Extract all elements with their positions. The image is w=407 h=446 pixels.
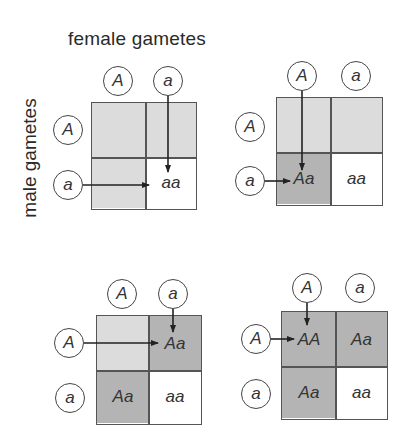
male-gamete-A: A xyxy=(235,112,265,142)
cell-r0c0 xyxy=(92,103,146,158)
cell-r0c1: Aa xyxy=(336,312,387,367)
female-gamete-a: a xyxy=(341,61,371,91)
male-gamete-a: a xyxy=(53,170,83,200)
female-gamete-A: A xyxy=(287,61,317,91)
female-gamete-A: A xyxy=(292,273,322,303)
cell-r0c0 xyxy=(277,98,331,153)
grid-divider xyxy=(145,103,147,209)
grid-divider xyxy=(282,366,387,368)
grid-divider xyxy=(92,157,196,159)
punnett-square-3: Aa Aa aa xyxy=(96,315,202,425)
cell-r1c0: Aa xyxy=(282,367,336,418)
cell-r1c1: aa xyxy=(146,158,196,208)
female-gametes-label: female gametes xyxy=(68,28,206,50)
male-gamete-A: A xyxy=(53,115,83,145)
cell-r0c1 xyxy=(146,103,196,158)
cell-r0c0: AA xyxy=(282,312,336,367)
female-gamete-a: a xyxy=(158,279,188,309)
cell-r1c1: aa xyxy=(336,367,387,418)
male-gamete-a: a xyxy=(235,166,265,196)
grid-divider xyxy=(277,152,382,154)
female-gamete-A: A xyxy=(107,279,137,309)
punnett-square-4: AA Aa Aa aa xyxy=(281,311,388,420)
male-gamete-A: A xyxy=(241,324,271,354)
male-gamete-a: a xyxy=(55,383,85,413)
female-gamete-a: a xyxy=(345,273,375,303)
female-gamete-a: a xyxy=(153,66,183,96)
male-gamete-A: A xyxy=(54,328,84,358)
cell-r1c0: Aa xyxy=(277,153,331,204)
male-gamete-a: a xyxy=(241,379,271,409)
cell-r0c1: Aa xyxy=(149,316,201,371)
male-gametes-label: male gametes xyxy=(19,98,41,217)
cell-r1c0 xyxy=(92,158,146,208)
female-gamete-A: A xyxy=(103,66,133,96)
cell-r0c1 xyxy=(331,98,382,153)
punnett-square-2: Aa aa xyxy=(276,97,383,206)
grid-divider xyxy=(97,370,201,372)
punnett-square-1: aa xyxy=(91,102,197,210)
cell-r1c0: Aa xyxy=(97,371,149,423)
cell-r1c1: aa xyxy=(331,153,382,204)
cell-r0c0 xyxy=(97,316,149,371)
cell-r1c1: aa xyxy=(149,371,201,423)
